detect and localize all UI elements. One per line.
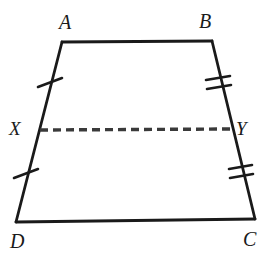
point-label-x: X [9,119,21,138]
edge-cd [16,219,255,222]
midsegment-xy-group [40,129,230,130]
edge-da [16,42,62,222]
vertex-label-d: D [10,231,24,251]
tick-mark-xd [14,169,38,178]
tick-mark-yc-1 [229,165,252,169]
tick-mark-by-1 [206,76,230,80]
vertex-label-c: C [243,229,256,249]
trapezoid-diagram-canvas [0,0,263,253]
vertex-label-a: A [59,12,71,32]
midsegment-xy [40,129,230,130]
edge-bc [212,41,255,219]
point-label-y: Y [236,119,247,138]
trapezoid-outline [16,41,255,222]
geometry-figure: A B C D X Y [0,0,263,253]
edge-ab [62,41,212,42]
vertex-label-b: B [199,11,211,31]
tick-mark-by-2 [207,85,231,89]
tick-mark-yc-2 [230,174,253,178]
